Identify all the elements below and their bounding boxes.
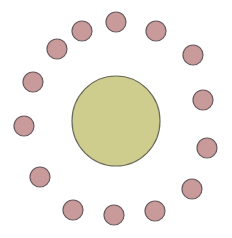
satellite-circle xyxy=(197,138,217,158)
satellite-circle xyxy=(183,45,203,65)
satellite-circle xyxy=(145,201,165,221)
satellite-circle xyxy=(47,39,67,59)
satellite-circle xyxy=(146,21,166,41)
satellite-circle xyxy=(30,167,50,187)
satellite-circle xyxy=(72,21,92,41)
satellite-circle xyxy=(104,205,124,225)
center-circle xyxy=(72,76,160,166)
satellite-circle xyxy=(182,179,202,199)
diagram-canvas xyxy=(0,0,232,238)
satellite-circle xyxy=(14,116,34,136)
satellite-circle xyxy=(106,12,126,32)
circle-arrangement-diagram xyxy=(0,0,232,238)
satellite-circle xyxy=(193,90,213,110)
satellite-circle xyxy=(23,72,43,92)
satellite-circle xyxy=(63,200,83,220)
